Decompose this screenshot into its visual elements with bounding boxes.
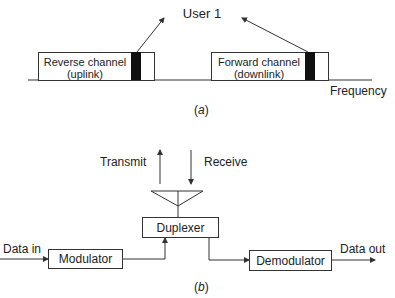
transmit-label: Transmit [100,156,146,168]
duplexer-box: Duplexer [142,217,219,238]
antenna-icon [151,191,203,206]
reverse-channel-sublabel: (uplink) [40,68,130,80]
caption-b: (b) [194,281,209,293]
uplink-arrow [137,18,164,52]
reverse-channel-label: Reverse channel [40,56,130,68]
mod-to-duplexer [123,238,165,259]
receive-label: Receive [204,156,247,168]
forward-user1-slot [305,52,315,80]
caption-a: (a) [194,104,209,116]
data-out-label: Data out [340,243,385,255]
forward-channel-sublabel: (downlink) [213,68,305,80]
reverse-user1-slot [131,52,141,80]
user-label: User 1 [170,8,234,20]
downlink-arrow [242,18,308,52]
forward-channel-label: Forward channel [213,56,305,68]
data-in-label: Data in [3,243,41,255]
modulator-box: Modulator [48,249,123,269]
duplexer-to-demod [209,237,249,260]
demodulator-box: Demodulator [249,250,332,271]
frequency-label: Frequency [330,85,387,97]
